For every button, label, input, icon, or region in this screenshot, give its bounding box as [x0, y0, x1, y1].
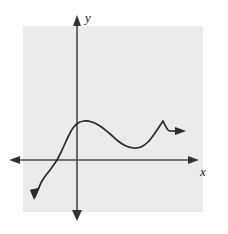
- function-graph-figure: y x: [0, 0, 228, 234]
- y-axis-label: y: [83, 10, 91, 25]
- graph-canvas: y x: [0, 0, 228, 234]
- graph-background-panel: [23, 26, 203, 212]
- y-axis-down-arrow-icon: [72, 210, 82, 221]
- y-axis-up-arrow-icon: [73, 15, 81, 26]
- x-axis-left-arrow-icon: [9, 156, 20, 164]
- x-axis-label: x: [199, 164, 206, 179]
